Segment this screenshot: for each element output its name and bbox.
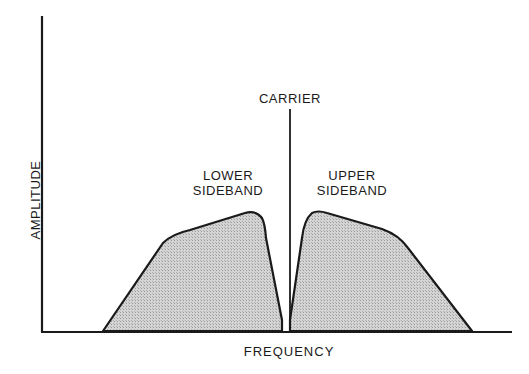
upper-sideband-label-line1: UPPER (302, 168, 402, 183)
lower-sideband-label-line2: SIDEBAND (178, 183, 278, 198)
y-axis-label: AMPLITUDE (28, 135, 43, 265)
lower-sideband-label-line1: LOWER (178, 168, 278, 183)
carrier-label: CARRIER (228, 91, 352, 106)
lower-sideband-shape (103, 212, 282, 331)
upper-sideband-label-line2: SIDEBAND (302, 183, 402, 198)
x-axis-label: FREQUENCY (214, 344, 364, 359)
upper-sideband-label: UPPER SIDEBAND (302, 168, 402, 198)
lower-sideband-label: LOWER SIDEBAND (178, 168, 278, 198)
upper-sideband-shape (290, 212, 472, 332)
